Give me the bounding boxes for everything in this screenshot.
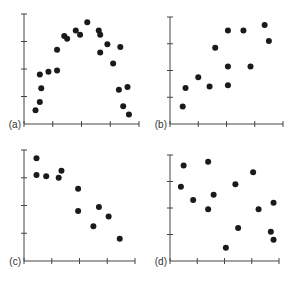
data-point <box>54 67 60 73</box>
panel-label: (d) <box>155 256 167 267</box>
data-point <box>190 197 196 203</box>
panel-label: (b) <box>155 119 167 130</box>
data-point <box>180 104 186 110</box>
data-point <box>117 44 123 50</box>
data-point <box>120 103 126 109</box>
data-point <box>96 204 102 210</box>
data-point <box>37 72 43 78</box>
data-point <box>183 85 189 91</box>
data-point <box>207 84 213 90</box>
data-point <box>37 99 43 105</box>
scatter-panel-b: (b) <box>155 17 283 130</box>
scatter-panel-a: (a) <box>9 14 139 130</box>
scatter-figure: (a) (b) (c) (d) <box>0 0 298 281</box>
data-point <box>56 175 62 181</box>
data-point <box>97 50 103 56</box>
data-point <box>225 63 231 69</box>
data-point <box>212 45 218 51</box>
data-point <box>235 225 241 231</box>
data-point <box>225 82 231 88</box>
data-point <box>240 27 246 33</box>
data-point <box>256 206 262 212</box>
data-point <box>266 38 272 44</box>
data-point <box>106 214 112 220</box>
data-point <box>43 173 49 179</box>
data-point <box>225 27 231 33</box>
data-point <box>90 223 96 229</box>
data-point <box>104 41 110 47</box>
data-point <box>33 172 39 178</box>
panel-label: (a) <box>9 119 21 130</box>
data-point <box>211 192 217 198</box>
data-point <box>205 159 211 165</box>
data-point <box>77 32 83 38</box>
scatter-panel-d: (d) <box>155 155 279 267</box>
data-point <box>84 19 90 25</box>
panel-label: (c) <box>9 256 21 267</box>
data-point <box>205 206 211 212</box>
data-point <box>45 69 51 75</box>
data-point <box>33 107 39 113</box>
data-point <box>271 237 277 243</box>
data-point <box>178 184 184 190</box>
scatter-panel-c: (c) <box>9 150 135 267</box>
data-point <box>262 22 268 28</box>
data-point <box>75 186 81 192</box>
data-point <box>181 163 187 169</box>
data-point <box>97 32 103 38</box>
data-point <box>116 87 122 93</box>
data-point <box>195 74 201 80</box>
data-point <box>58 168 64 174</box>
data-point <box>250 169 256 175</box>
data-point <box>64 36 70 42</box>
data-point <box>268 229 274 235</box>
data-point <box>126 111 132 117</box>
data-point <box>271 200 277 206</box>
data-point <box>75 208 81 214</box>
data-point <box>38 85 44 91</box>
data-point <box>223 245 229 251</box>
data-point <box>54 47 60 53</box>
data-point <box>248 63 254 69</box>
data-point <box>117 236 123 242</box>
data-point <box>110 61 116 67</box>
data-point <box>33 155 39 161</box>
data-point <box>125 84 131 90</box>
data-point <box>232 181 238 187</box>
